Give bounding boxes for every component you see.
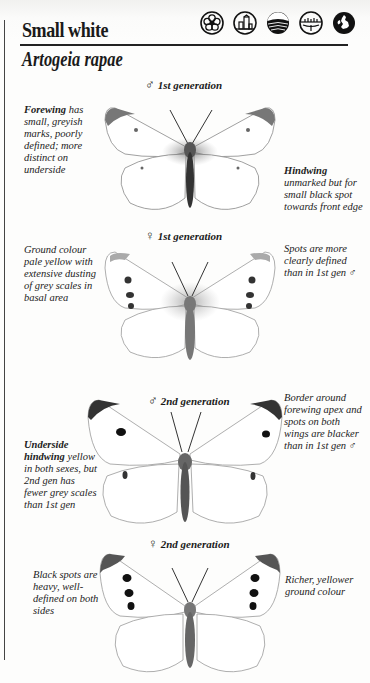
field-guide-page: Small white Artogeia rapae ♂1st generati… [0, 0, 370, 683]
butterfly-male-1st-gen-illustration [100, 88, 280, 218]
garden-flower-icon [200, 11, 224, 35]
note-spots-defined: Spots are more clearly defined than in 1… [284, 243, 364, 279]
species-common-name: Small white [22, 18, 108, 43]
habitat-icons [200, 11, 356, 35]
wetland-marsh-icon [299, 11, 323, 35]
note-hindwing: Hindwing unmarked but for small black sp… [284, 165, 364, 213]
butterfly-male-2nd-gen-illustration [85, 392, 285, 532]
butterfly-female-1st-gen-illustration [100, 240, 280, 365]
urban-buildings-icon [233, 11, 257, 35]
note-underside-hindwing: Underside hindwing yellow in both sexes,… [24, 439, 100, 511]
note-forewing: Forewing has small, greyish marks, poorl… [24, 104, 98, 176]
margin-rule [4, 20, 5, 660]
british-isles-map-icon [332, 11, 356, 35]
note-ground-colour: Ground colour pale yellow with extensive… [24, 244, 104, 304]
header-rule [20, 44, 348, 46]
note-black-spots: Black spots are heavy, well-defined on b… [33, 569, 113, 617]
note-richer-colour: Richer, yellower ground colour [285, 574, 367, 598]
species-latin-name: Artogeia rapae [22, 48, 123, 71]
farmland-field-icon [266, 11, 290, 35]
note-border-apex: Border around forewing apex and spots on… [284, 392, 364, 452]
butterfly-female-2nd-gen-illustration [95, 548, 285, 678]
